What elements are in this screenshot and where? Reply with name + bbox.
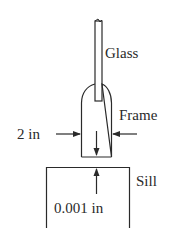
glass-label: Glass xyxy=(105,45,138,61)
gap-label: 0.001 in xyxy=(54,200,104,216)
glass-pane xyxy=(95,21,102,101)
glass-frame-sill-diagram: Glass Frame 2 in Sill 0.001 in xyxy=(0,0,178,237)
frame-label: Frame xyxy=(119,107,158,123)
sill-label: Sill xyxy=(136,173,157,189)
sill-outline xyxy=(47,168,130,229)
width-label: 2 in xyxy=(17,126,40,142)
